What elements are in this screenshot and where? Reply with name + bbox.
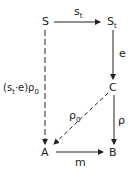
node-St: St	[107, 16, 117, 32]
commutative-diagram: S St C A B st e ρ ρ0 m (st·e)ρ0	[0, 0, 132, 174]
node-B: B	[109, 147, 117, 158]
label-m: m	[75, 157, 86, 168]
label-left: (st·e)ρ0	[3, 82, 39, 98]
label-e: e	[119, 48, 126, 59]
label-rho: ρ	[118, 115, 125, 126]
node-A: A	[41, 147, 49, 158]
label-rho0: ρ0	[69, 110, 80, 126]
node-C: C	[109, 82, 117, 93]
node-S: S	[42, 16, 49, 27]
arrow-rho0	[54, 93, 108, 144]
label-s-t: st	[74, 6, 82, 22]
